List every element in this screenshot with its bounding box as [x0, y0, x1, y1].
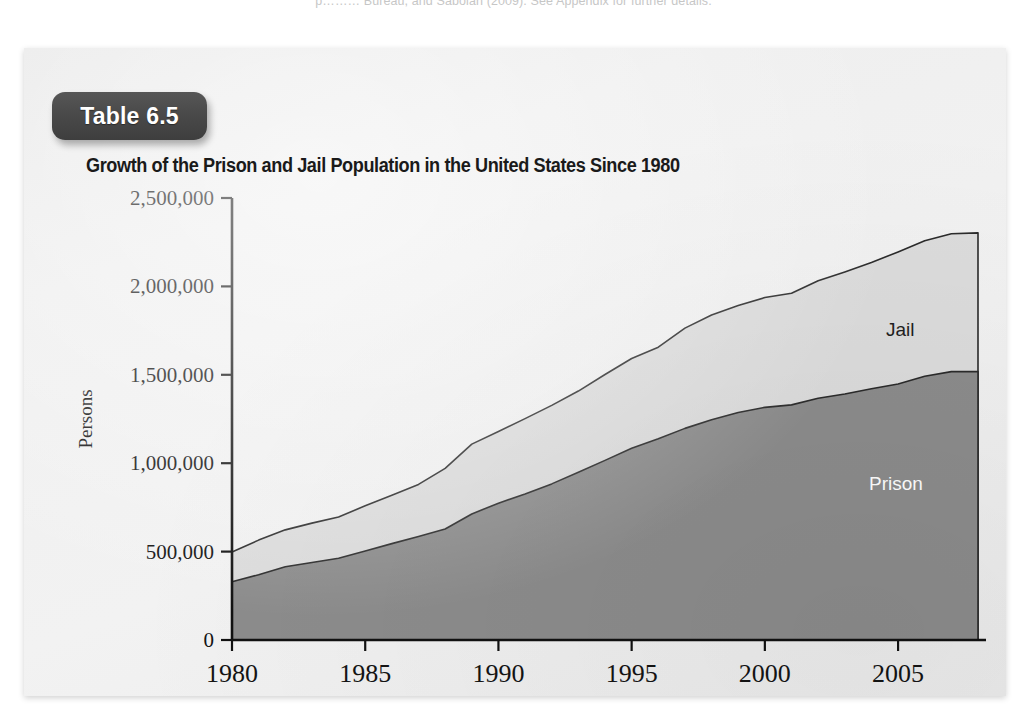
x-tick-label: 2005 [872, 659, 924, 688]
y-tick-label: 500,000 [146, 540, 214, 564]
stacked-area-chart: 0500,0001,000,0001,500,0002,000,0002,500… [24, 48, 1006, 696]
series-label-prison: Prison [869, 473, 923, 494]
figure-panel: Table 6.5 Growth of the Prison and Jail … [24, 48, 1006, 696]
table-badge-label: Table 6.5 [80, 103, 179, 130]
y-tick-label: 1,000,000 [130, 451, 214, 475]
y-axis-title: Persons [75, 389, 96, 448]
y-tick-label: 2,500,000 [130, 186, 214, 210]
x-tick-label: 1980 [206, 659, 258, 688]
y-tick-label: 0 [204, 628, 215, 652]
y-tick-label: 2,000,000 [130, 274, 214, 298]
plot-series-group [232, 233, 978, 640]
chart-title: Growth of the Prison and Jail Population… [86, 154, 680, 177]
x-tick-label: 1985 [339, 659, 391, 688]
y-tick-label: 1,500,000 [130, 363, 214, 387]
x-tick-label: 1990 [472, 659, 524, 688]
x-tick-labels: 198019851990199520002005 [206, 659, 924, 688]
chart-svg: 0500,0001,000,0001,500,0002,000,0002,500… [24, 48, 1006, 696]
x-tick-label: 1995 [606, 659, 658, 688]
page-residual-text: p……… Bureau, and Sabolan (2009). See App… [0, 0, 1027, 12]
y-tick-labels: 0500,0001,000,0001,500,0002,000,0002,500… [130, 186, 214, 652]
series-label-jail: Jail [886, 319, 915, 340]
x-tick-label: 2000 [739, 659, 791, 688]
table-badge: Table 6.5 [52, 92, 207, 140]
